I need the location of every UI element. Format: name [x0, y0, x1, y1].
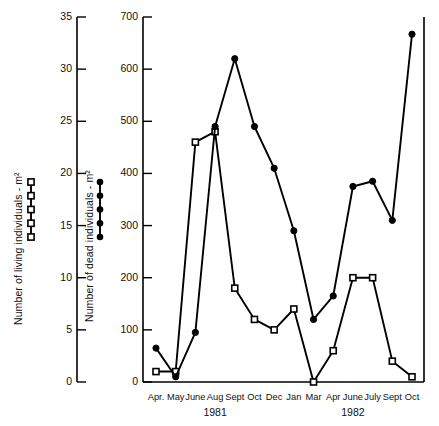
- tick-label-living: 5: [35, 323, 72, 335]
- data-point-dead-9: [330, 293, 336, 299]
- data-point-living-8: [311, 379, 317, 385]
- tick-label-dead: 500: [101, 114, 138, 126]
- key-living-marker-1: [28, 193, 34, 199]
- tick-label-living: 30: [35, 62, 72, 74]
- tick-label-dead: 700: [101, 10, 138, 22]
- data-point-living-13: [409, 374, 415, 380]
- year-label-1981: 1981: [192, 406, 238, 418]
- data-point-dead-1: [173, 374, 179, 380]
- key-dead-marker-1: [97, 192, 104, 199]
- data-point-living-7: [291, 306, 297, 312]
- data-point-dead-12: [389, 217, 395, 223]
- year-label-1982: 1982: [330, 406, 376, 418]
- key-living-marker-4: [28, 234, 34, 240]
- tick-label-living: 25: [35, 114, 72, 126]
- data-point-dead-10: [350, 183, 356, 189]
- key-dead-marker-4: [97, 234, 104, 241]
- data-point-living-11: [370, 275, 376, 281]
- key-living-marker-2: [28, 206, 34, 212]
- tick-label-dead: 300: [101, 219, 138, 231]
- series-line-living: [156, 132, 412, 382]
- tick-label-living: 0: [35, 375, 72, 387]
- data-point-living-12: [389, 358, 395, 364]
- data-point-dead-6: [271, 165, 277, 171]
- key-dead-marker-0: [97, 179, 104, 186]
- data-point-dead-13: [409, 31, 415, 37]
- data-point-dead-0: [153, 345, 159, 351]
- data-point-dead-8: [310, 316, 316, 322]
- tick-label-living: 10: [35, 271, 72, 283]
- data-point-dead-11: [370, 178, 376, 184]
- data-point-dead-4: [232, 56, 238, 62]
- x-axis-label-13: Oct: [392, 392, 432, 402]
- tick-label-living: 15: [35, 219, 72, 231]
- tick-label-dead: 200: [101, 271, 138, 283]
- data-point-living-6: [271, 327, 277, 333]
- data-point-living-5: [251, 316, 257, 322]
- data-point-dead-3: [212, 123, 218, 129]
- data-point-living-4: [232, 285, 238, 291]
- data-point-dead-7: [291, 228, 297, 234]
- tick-label-dead: 400: [101, 166, 138, 178]
- tick-label-dead: 100: [101, 323, 138, 335]
- tick-label-living: 20: [35, 166, 72, 178]
- tick-label-dead: 0: [101, 375, 138, 387]
- data-point-living-2: [192, 139, 198, 145]
- key-dead-marker-2: [97, 206, 104, 213]
- series-line-dead: [156, 34, 412, 377]
- data-point-living-0: [153, 369, 159, 375]
- data-point-dead-2: [192, 329, 198, 335]
- data-point-living-10: [350, 275, 356, 281]
- tick-label-dead: 600: [101, 62, 138, 74]
- tick-label-living: 35: [35, 10, 72, 22]
- data-point-dead-5: [251, 123, 257, 129]
- key-living-marker-0: [28, 179, 34, 185]
- data-point-living-9: [330, 348, 336, 354]
- axis-title-living: Number of living individuals - m²: [12, 172, 24, 325]
- key-living-marker-3: [28, 220, 34, 226]
- axis-title-dead: Number of dead individuals - m²: [83, 170, 95, 322]
